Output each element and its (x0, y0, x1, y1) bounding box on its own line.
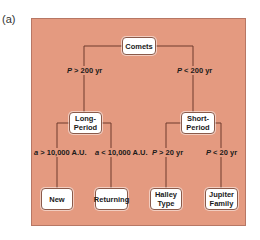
node-short-period: Short- Period (181, 112, 215, 134)
node-new: New (41, 188, 73, 210)
node-comets-label: Comets (125, 42, 153, 51)
edge-label-jupiter: P < 20 yr (205, 148, 238, 157)
connector-root-short (156, 46, 193, 113)
node-returning: Returning (95, 188, 128, 210)
node-long-period: Long- Period (69, 112, 102, 134)
connector-root-long (84, 46, 122, 113)
edge-label-returning: a < 10,000 A.U. (94, 148, 148, 157)
node-jupiter-family: Jupiter Family (205, 188, 238, 210)
edge-label-long-period: P > 200 yr (66, 66, 103, 75)
node-halley-type: Halley Type (150, 188, 182, 210)
edge-label-short-period: P < 200 yr (176, 66, 213, 75)
edge-label-halley: P > 20 yr (151, 148, 184, 157)
node-comets: Comets (122, 37, 156, 55)
edge-label-new: a > 10,000 A.U. (33, 148, 87, 157)
